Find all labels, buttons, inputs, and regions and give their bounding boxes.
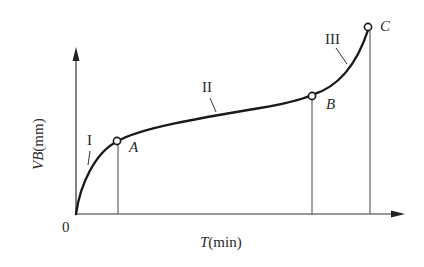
x-axis-label: T(min): [200, 235, 242, 250]
origin-label: 0: [62, 220, 70, 235]
stage-iii-leader: [336, 48, 347, 64]
y-axis-label: VB(mm): [30, 118, 47, 170]
x-axis-unit: (min): [208, 234, 241, 250]
stage-iii-label: III: [325, 32, 340, 47]
point-b-marker: [308, 92, 315, 99]
point-c-marker: [364, 23, 371, 30]
stage-i-label: I: [87, 133, 92, 148]
stage-ii-label: II: [202, 80, 212, 95]
y-axis-unit: (mm): [30, 118, 46, 151]
y-axis-variable: VB: [30, 152, 46, 170]
point-a-marker: [113, 137, 120, 144]
point-a-label: A: [129, 140, 138, 155]
point-c-label: C: [380, 19, 390, 34]
stage-i-leader: [88, 151, 90, 165]
wear-curve: [76, 30, 368, 214]
point-b-label: B: [326, 97, 335, 112]
stage-ii-leader: [210, 98, 216, 112]
x-axis-arrow-icon: [391, 211, 405, 218]
y-axis-arrow-icon: [73, 47, 80, 61]
